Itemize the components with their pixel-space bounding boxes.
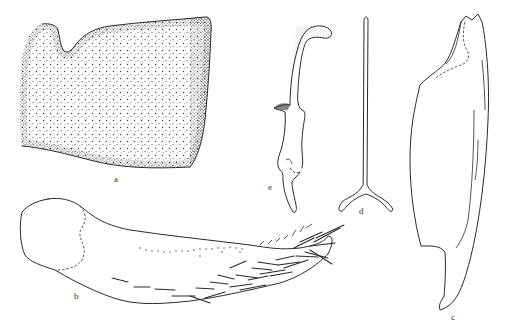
- label-d: d: [359, 207, 364, 216]
- panel-e: [274, 25, 332, 212]
- setae: [112, 225, 344, 303]
- short-hairs: [260, 224, 312, 245]
- scientific-figure: a b c d e: [0, 0, 505, 324]
- panel-a: [15, 10, 215, 175]
- label-b: b: [74, 292, 79, 301]
- pore-row: [139, 246, 242, 256]
- label-e: e: [268, 183, 272, 192]
- figure-canvas: [0, 0, 505, 324]
- panel-d: [339, 17, 393, 211]
- panel-c: [410, 14, 489, 310]
- panel-b: [20, 198, 344, 303]
- label-c: c: [451, 313, 455, 322]
- label-a: a: [114, 175, 118, 184]
